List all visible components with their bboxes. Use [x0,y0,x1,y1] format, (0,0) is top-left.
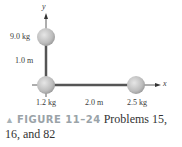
y-axis-label: y [42,2,46,11]
caption-text-line1: Problems 15, [104,112,167,126]
sphere-9kg [37,28,55,46]
figure-caption: ▲ FIGURE 11–24 Problems 15, [5,112,167,127]
sphere-2-5kg [127,76,145,94]
horizontal-distance-label: 2.0 m [85,98,103,107]
triangle-marker-icon: ▲ [5,115,14,125]
mass-label-top: 9.0 kg [10,32,30,41]
mass-label-right: 2.5 kg [127,98,147,107]
figure-id: FIGURE 11–24 [17,114,101,125]
mass-label-origin: 1.2 kg [36,98,56,107]
x-axis-label: x [163,79,167,88]
figure-caption-line2: 16, and 82 [5,127,55,142]
vertical-distance-label: 1.0 m [15,56,33,65]
sphere-1-2kg [37,76,55,94]
caption-text-line2: 16, and 82 [5,127,55,141]
